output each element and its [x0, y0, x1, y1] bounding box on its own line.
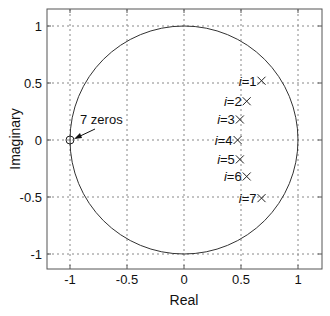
pole-zero-plot: -1-0.500.51 10.50-0.5-1 i=1i=2i=3i=4i=5i… [0, 0, 330, 316]
y-tick-label: 0.5 [24, 76, 42, 91]
x-tick-label: 0 [180, 272, 187, 287]
y-tick-label: 0 [35, 133, 42, 148]
pole-label: i=2 [224, 94, 242, 109]
pole-label: i=7 [239, 191, 257, 206]
y-tick-label: 1 [35, 19, 42, 34]
y-tick-label: -0.5 [20, 190, 42, 205]
x-axis-label: Real [170, 292, 199, 308]
x-tick-label: -1 [64, 272, 76, 287]
pole-label: i=3 [217, 112, 235, 127]
pole-label: i=1 [239, 74, 257, 89]
pole-label: i=4 [215, 133, 233, 148]
zeros-annotation-label: 7 zeros [80, 112, 123, 127]
y-tick-label: -1 [30, 247, 42, 262]
pole-label: i=5 [217, 152, 235, 167]
x-tick-label: 0.5 [232, 272, 250, 287]
y-axis-label: Imaginary [7, 108, 23, 169]
x-tick-label: -0.5 [116, 272, 138, 287]
pole-label: i=6 [224, 169, 242, 184]
x-tick-label: 1 [294, 272, 301, 287]
